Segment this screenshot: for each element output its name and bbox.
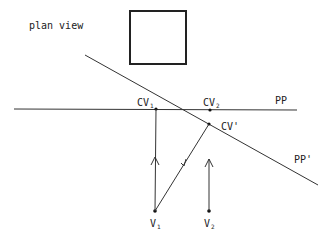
cv1-subscript: 1 — [150, 102, 154, 109]
perspective-diagram: plan view CV 1 CV 2 CV' PP PP' V 1 V 2 — [0, 0, 328, 239]
v2-subscript: 2 — [211, 223, 215, 230]
cv2-label: CV — [203, 97, 215, 108]
pp-prime-label: PP' — [294, 154, 312, 165]
point-cv2 — [208, 108, 211, 111]
plan-view-label: plan view — [29, 20, 84, 31]
cv-prime-label: CV' — [221, 121, 239, 132]
cv1-label: CV — [137, 97, 149, 108]
sightline-v1-cv1 — [155, 109, 156, 211]
pp-label: PP — [275, 95, 287, 106]
v2-label: V — [204, 218, 210, 229]
sightline-v1-cv-prime — [155, 124, 209, 211]
picture-plane-line-pp-prime — [85, 55, 318, 185]
arrow-diagonal-icon — [181, 159, 186, 166]
cv2-subscript: 2 — [216, 102, 220, 109]
diagram-canvas: plan view CV 1 CV 2 CV' PP PP' V 1 V 2 — [0, 0, 328, 239]
plan-view-square — [130, 11, 186, 64]
v1-subscript: 1 — [157, 223, 161, 230]
v1-label: V — [150, 218, 156, 229]
